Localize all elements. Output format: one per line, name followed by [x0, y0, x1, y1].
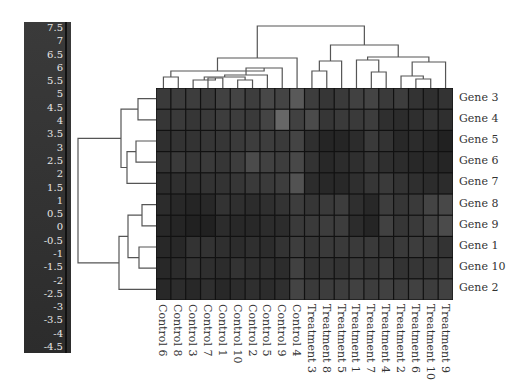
heatmap-cell: [394, 195, 408, 215]
column-label: Treatment 4: [379, 304, 391, 373]
heatmap-cell: [394, 258, 408, 278]
heatmap-cell: [157, 216, 171, 236]
row-label: Gene 5: [459, 134, 498, 146]
heatmap-cell: [231, 195, 245, 215]
column-label: Control 2: [246, 304, 258, 356]
heatmap-cell: [409, 110, 423, 130]
column-label: Treatment 2: [394, 304, 406, 373]
heatmap-cell: [246, 258, 260, 278]
heatmap-cell: [171, 131, 185, 151]
heatmap-cell: [379, 279, 393, 299]
heatmap-cell: [424, 110, 438, 130]
heatmap-cell: [320, 173, 334, 193]
heatmap-cell: [350, 152, 364, 172]
heatmap-cell: [320, 237, 334, 257]
heatmap-cell: [305, 279, 319, 299]
heatmap-cell: [379, 131, 393, 151]
heatmap-cell: [409, 152, 423, 172]
heatmap-cell: [261, 216, 275, 236]
heatmap-cell: [394, 131, 408, 151]
heatmap-cell: [290, 173, 304, 193]
heatmap-cell: [246, 279, 260, 299]
heatmap-cell: [216, 237, 230, 257]
heatmap-cell: [186, 110, 200, 130]
heatmap-cell: [394, 173, 408, 193]
heatmap-cell: [186, 237, 200, 257]
heatmap-cell: [216, 110, 230, 130]
heatmap-cell: [350, 237, 364, 257]
heatmap-cell: [350, 173, 364, 193]
heatmap-cell: [305, 131, 319, 151]
heatmap-cell: [275, 173, 289, 193]
heatmap-cell: [439, 152, 453, 172]
heatmap-cell: [350, 279, 364, 299]
heatmap-cell: [231, 110, 245, 130]
heatmap-cell: [261, 152, 275, 172]
row-label: Gene 3: [459, 92, 498, 104]
heatmap-cell: [201, 216, 215, 236]
heatmap-cell: [157, 237, 171, 257]
heatmap-cell: [424, 152, 438, 172]
column-label: Treatment 3: [305, 304, 317, 373]
heatmap-cell: [379, 173, 393, 193]
dendrogram-branch: [371, 72, 386, 88]
row-label: Gene 1: [459, 240, 498, 252]
heatmap-cell: [320, 195, 334, 215]
heatmap-cell: [290, 131, 304, 151]
heatmap-cell: [290, 279, 304, 299]
heatmap-cell: [335, 279, 349, 299]
heatmap-cell: [409, 89, 423, 109]
dendrogram-branch: [312, 71, 327, 88]
heatmap-cell: [171, 237, 185, 257]
heatmap-cell: [157, 279, 171, 299]
heatmap-cell: [394, 237, 408, 257]
heatmap-cell: [320, 216, 334, 236]
heatmap-cell: [424, 195, 438, 215]
dendrogram-branch: [142, 205, 156, 226]
heatmap-cell: [350, 195, 364, 215]
heatmap-cell: [439, 110, 453, 130]
heatmap-cell: [246, 89, 260, 109]
heatmap-cell: [290, 195, 304, 215]
column-label: Treatment 6: [409, 304, 421, 373]
heatmap-cell: [201, 152, 215, 172]
heatmap-cell: [394, 279, 408, 299]
dendrogram-branch: [138, 99, 156, 120]
heatmap-cell: [350, 258, 364, 278]
heatmap-cell: [261, 131, 275, 151]
heatmap-cell: [261, 110, 275, 130]
heatmap-cell: [275, 258, 289, 278]
heatmap-cell: [365, 110, 379, 130]
heatmap-cell: [216, 173, 230, 193]
heatmap-cell: [379, 237, 393, 257]
heatmap-cell: [335, 216, 349, 236]
heatmap-cell: [394, 89, 408, 109]
heatmap-cell: [275, 131, 289, 151]
heatmap-cell: [424, 173, 438, 193]
heatmap-cell: [201, 110, 215, 130]
heatmap-cell: [365, 237, 379, 257]
heatmap-cell: [365, 195, 379, 215]
dendrogram-branch: [119, 236, 156, 289]
column-dendrogram: [163, 26, 445, 88]
heatmap-cell: [439, 131, 453, 151]
row-label: Gene 6: [459, 155, 498, 167]
column-label: Treatment 8: [320, 304, 332, 373]
heatmap-cell: [439, 279, 453, 299]
dendrogram-branch: [257, 26, 364, 58]
heatmap-cell: [424, 237, 438, 257]
heatmap-cell: [365, 216, 379, 236]
heatmap-cell: [409, 173, 423, 193]
heatmap-cell: [231, 173, 245, 193]
heatmap-cell: [201, 89, 215, 109]
row-label: Gene 7: [459, 176, 498, 188]
heatmap-cell: [231, 89, 245, 109]
heatmap-cell: [231, 216, 245, 236]
heatmap-cell: [424, 131, 438, 151]
heatmap-cell: [201, 258, 215, 278]
heatmap-cell: [216, 216, 230, 236]
heatmap-cell: [439, 89, 453, 109]
heatmap-cell: [246, 216, 260, 236]
heatmap-cell: [201, 173, 215, 193]
heatmap-cell: [216, 195, 230, 215]
